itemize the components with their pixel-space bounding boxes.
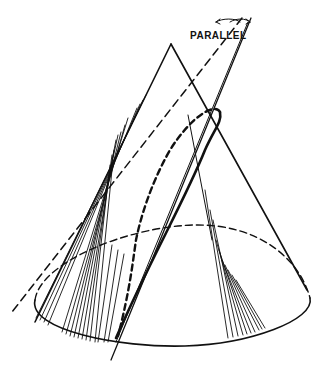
parallel-label: PARALLEL [190, 30, 247, 41]
cone-figure [0, 0, 318, 367]
cone-base-front [35, 298, 311, 346]
shading-right [205, 190, 265, 338]
cone-right-element [171, 44, 307, 290]
cutting-plane-edge-right [111, 18, 251, 360]
parabola-front [116, 112, 220, 338]
parabola-cone-diagram: PARALLEL [0, 0, 318, 367]
shading-left [36, 95, 146, 342]
parallel-element-dashed [12, 18, 242, 312]
